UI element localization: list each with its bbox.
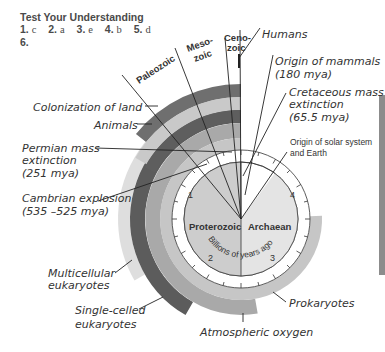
paleozoic-label: Paleozoic: [134, 53, 177, 86]
tick-3: 3: [270, 253, 275, 263]
cambrian-date: (535 –525 mya): [22, 205, 109, 218]
geologic-clock-diagram: 1 2 3 4 Proterozoic Archaean Billions of…: [0, 0, 385, 352]
mammals-label: Origin of mammals: [275, 55, 381, 68]
multicellular-label-2: eukaryotes: [48, 279, 110, 292]
single-celled-label: Single-celled: [75, 304, 146, 317]
permian-label-2: extinction: [22, 154, 77, 167]
cretaceous-label-2: extinction: [289, 98, 344, 111]
archaean-label: Archaean: [248, 221, 291, 232]
animals-label: Animals: [93, 119, 138, 132]
land-label: Colonization of land: [33, 101, 143, 114]
permian-date: (251 mya): [22, 167, 79, 180]
cretaceous-date: (65.5 mya): [289, 111, 350, 124]
proterozoic-label: Proterozoic: [189, 221, 241, 232]
prokaryotes-label: Prokaryotes: [289, 297, 355, 310]
cenozoic-label-2: zoic: [227, 42, 245, 53]
solar-system-label-2: and Earth: [290, 148, 327, 158]
tick-4: 4: [290, 190, 295, 200]
atmospheric-oxygen-label: Atmospheric oxygen: [199, 326, 313, 339]
single-celled-label-2: eukaryotes: [75, 318, 137, 331]
tick-2: 2: [208, 253, 213, 263]
cambrian-label: Cambrian explosion: [22, 192, 131, 205]
tick-1: 1: [188, 190, 193, 200]
humans-label: Humans: [262, 28, 308, 41]
solar-system-label: Origin of solar system: [290, 137, 372, 147]
mammals-date: (180 mya): [275, 68, 332, 81]
